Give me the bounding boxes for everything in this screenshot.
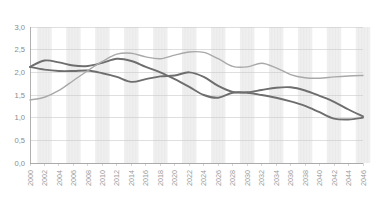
x-axis-tick-label: 2022 (185, 170, 194, 186)
x-axis-tick-label: 2026 (214, 170, 223, 186)
y-axis-labels: 0,00,51,01,52,02,53,0 (14, 23, 25, 168)
x-axis-tick-label: 2020 (170, 170, 179, 186)
y-axis-tick-label: 3,0 (14, 23, 25, 32)
x-axis-tick-label: 2034 (272, 170, 281, 186)
x-axis-tick-label: 2016 (141, 170, 150, 186)
x-axis-tickmarks (30, 163, 363, 166)
x-axis-tick-label: 2038 (301, 170, 310, 186)
x-axis-tick-label: 2044 (344, 170, 353, 186)
x-axis-tick-label: 2010 (98, 170, 107, 186)
chart-canvas: 0,00,51,01,52,02,53,0 200020022004200620… (0, 0, 372, 200)
x-axis-tick-label: 2018 (156, 170, 165, 186)
x-axis-tick-label: 2036 (286, 170, 295, 186)
x-axis-tick-label: 2030 (243, 170, 252, 186)
x-axis-tick-label: 2004 (55, 170, 64, 186)
line-chart: 0,00,51,01,52,02,53,0 200020022004200620… (0, 0, 372, 200)
x-axis-tick-label: 2014 (127, 170, 136, 186)
x-axis-tick-label: 2032 (257, 170, 266, 186)
x-axis-labels: 2000200220042006200820102012201420162018… (26, 170, 368, 186)
y-axis-tick-label: 1,0 (14, 113, 25, 122)
y-axis-tick-label: 0,5 (14, 136, 25, 145)
x-axis-tick-label: 2008 (84, 170, 93, 186)
y-axis-tick-label: 1,5 (14, 91, 25, 100)
x-axis-tick-label: 2042 (330, 170, 339, 186)
x-axis-tick-label: 2006 (69, 170, 78, 186)
x-axis-tick-label: 2012 (112, 170, 121, 186)
x-axis-tick-label: 2046 (359, 170, 368, 186)
y-axis-tick-label: 2,0 (14, 68, 25, 77)
y-axis-tick-label: 2,5 (14, 45, 25, 54)
x-axis-tick-label: 2040 (315, 170, 324, 186)
y-axis-tick-label: 0,0 (14, 159, 25, 168)
x-axis-tick-label: 2024 (199, 170, 208, 186)
x-axis-tick-label: 2002 (40, 170, 49, 186)
x-axis-tick-label: 2028 (228, 170, 237, 186)
x-axis-tick-label: 2000 (26, 170, 35, 186)
